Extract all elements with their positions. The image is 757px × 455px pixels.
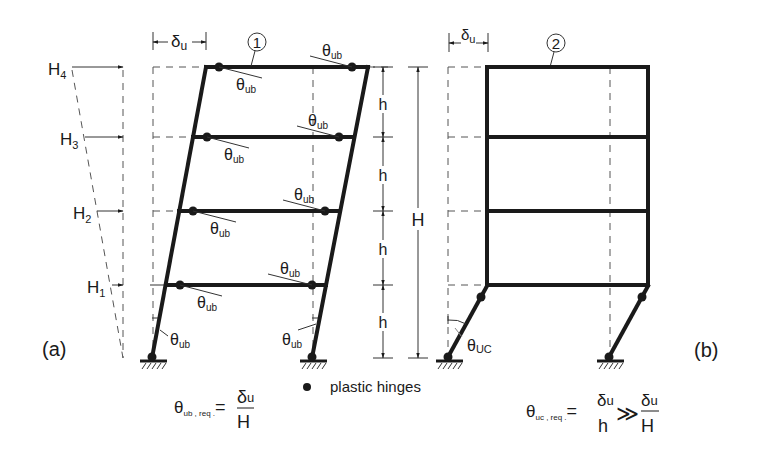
drift-dimension-a: δu: [153, 32, 206, 53]
panel-b-label: (b): [694, 339, 718, 361]
hinge-legend-icon: [303, 383, 311, 391]
svg-text:H: H: [412, 210, 425, 230]
svg-text:θub: θub: [197, 294, 217, 313]
svg-text:δu: δu: [171, 32, 187, 53]
fixed-supports-b: [436, 361, 624, 369]
svg-text:H2: H2: [73, 204, 91, 225]
svg-text:θUC: θUC: [467, 337, 492, 355]
legend: plastic hinges: [303, 378, 421, 395]
svg-text:H3: H3: [60, 130, 78, 151]
formula-a: θub , req .= δu H: [174, 387, 254, 432]
svg-text:θub: θub: [170, 331, 190, 350]
svg-text:h: h: [379, 167, 388, 184]
svg-text:θub: θub: [224, 146, 244, 165]
rotation-labels-a: θub θub θub θub θub θub θub θub θub θub: [170, 42, 342, 350]
svg-text:H: H: [641, 416, 654, 436]
svg-text:h: h: [379, 96, 388, 113]
svg-text:δu: δu: [461, 26, 475, 45]
svg-text:θub: θub: [236, 76, 256, 95]
svg-text:2: 2: [552, 35, 560, 52]
svg-text:1: 1: [253, 34, 261, 51]
svg-text:≫: ≫: [616, 401, 639, 426]
formula-b: θuc , req .= δu h ≫ δu H: [526, 391, 659, 436]
height-dimensions: h h h h H: [373, 67, 428, 358]
svg-text:θub: θub: [294, 186, 314, 205]
legend-text: plastic hinges: [330, 378, 421, 395]
svg-text:θub: θub: [322, 42, 342, 61]
frame-marker-1: 1: [248, 33, 266, 66]
svg-text:h: h: [379, 314, 388, 331]
panel-b: δu 2 θUC: [436, 26, 718, 436]
drift-dimension-b: δu: [449, 26, 488, 52]
svg-text:H4: H4: [48, 60, 66, 81]
svg-text:δu: δu: [641, 391, 658, 410]
panel-a: H4 H3 H2 H1 δu: [42, 32, 390, 432]
svg-text:H1: H1: [87, 278, 105, 299]
svg-text:h: h: [598, 416, 608, 436]
svg-text:θuc , req .=: θuc , req .=: [526, 401, 577, 422]
fixed-supports-a: [140, 361, 327, 369]
svg-text:θub: θub: [282, 331, 302, 350]
svg-text:θub: θub: [308, 112, 328, 131]
svg-text:δu: δu: [237, 387, 254, 407]
deformed-frame-a: [152, 67, 368, 358]
svg-text:θub: θub: [210, 220, 230, 239]
svg-text:H: H: [237, 412, 250, 432]
svg-text:θub: θub: [280, 260, 300, 279]
deformed-frame-b: [448, 67, 648, 357]
frame-marker-2: 2: [547, 34, 565, 67]
panel-a-label: (a): [42, 338, 66, 360]
frame-mechanism-diagram: H4 H3 H2 H1 δu: [0, 0, 757, 455]
svg-text:h: h: [379, 241, 388, 258]
svg-text:θub , req .=: θub , req .=: [174, 397, 226, 418]
svg-text:δu: δu: [597, 391, 614, 410]
